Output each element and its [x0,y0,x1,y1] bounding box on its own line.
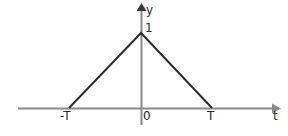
x-axis-label: t [273,110,278,122]
triangular-pulse-figure: y t 1 0 -T T [0,0,288,136]
y-tick-label-1: 1 [145,22,153,34]
y-axis-label: y [146,4,153,16]
x-tick-label-negative-t: -T [60,110,71,122]
origin-label: 0 [143,110,151,122]
y-axis-arrowhead-icon [137,3,147,11]
x-tick-label-positive-t: T [207,110,214,122]
